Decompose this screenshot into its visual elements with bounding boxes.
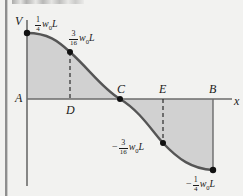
station-label-C: C <box>117 83 125 95</box>
load-symbol: w <box>42 18 49 29</box>
value-label-end-bottom: −14w0L <box>186 176 215 193</box>
fraction-end: 14 <box>193 176 199 193</box>
station-label-A: A <box>15 92 22 104</box>
fraction-numerator: 3 <box>69 30 78 38</box>
fraction-e: 316 <box>119 139 128 156</box>
value-expression-d: w0L <box>79 32 94 43</box>
value-label-at-D: 316w0L <box>68 30 94 47</box>
length-symbol: L <box>52 18 58 29</box>
station-label-B: B <box>209 83 216 95</box>
length-symbol: L <box>210 178 216 189</box>
fraction-denominator: 16 <box>119 149 128 156</box>
fraction-start: 14 <box>35 16 41 33</box>
value-expression-start: w0L <box>42 18 57 29</box>
fraction-denominator: 4 <box>193 186 199 193</box>
shear-diagram-figure: V x A D C E B 14w0L 316w0L −316w0L −14w0… <box>0 0 243 196</box>
fraction-denominator: 4 <box>35 26 41 33</box>
value-label-start-top: 14w0L <box>34 16 57 33</box>
marker-point-A <box>24 30 30 36</box>
station-label-E: E <box>159 83 166 95</box>
station-label-D: D <box>66 104 75 116</box>
load-symbol: w <box>79 32 86 43</box>
x-axis-label: x <box>234 95 239 107</box>
marker-point-C <box>117 96 123 102</box>
v-axis-label: V <box>15 15 22 27</box>
fraction-numerator: 1 <box>193 176 199 184</box>
marker-point-D <box>67 49 73 55</box>
marker-point-B <box>210 167 216 173</box>
value-expression-e: w0L <box>129 141 144 152</box>
length-symbol: L <box>139 141 145 152</box>
value-expression-end: w0L <box>200 178 215 189</box>
fraction-d: 316 <box>69 30 78 47</box>
value-label-at-E: −316w0L <box>112 139 144 156</box>
fraction-denominator: 16 <box>69 40 78 47</box>
value-sign-end: − <box>186 178 192 189</box>
value-sign-e: − <box>112 141 118 152</box>
fraction-numerator: 1 <box>35 16 41 24</box>
fraction-numerator: 3 <box>119 139 128 147</box>
marker-point-E <box>160 140 166 146</box>
length-symbol: L <box>89 32 95 43</box>
